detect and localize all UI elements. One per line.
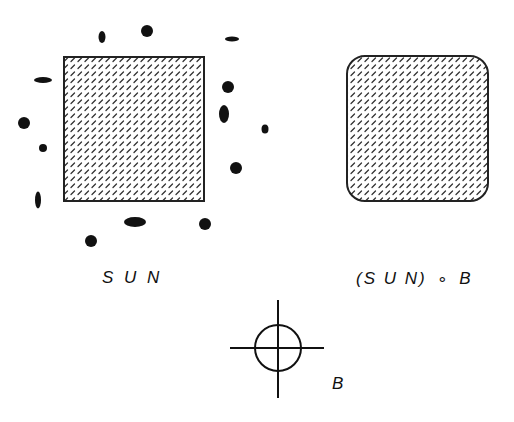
noise-blob	[225, 37, 239, 42]
right-panel-label: (S U N) ∘ B	[356, 268, 472, 289]
structuring-element-label: B	[332, 374, 346, 394]
noise-blob	[141, 25, 153, 37]
noise-blob	[34, 77, 52, 83]
noise-blob	[35, 192, 41, 209]
noise-blob	[222, 81, 234, 93]
noise-blob	[39, 144, 47, 152]
noise-blob	[18, 117, 30, 129]
noise-blob	[124, 217, 146, 227]
right-label-set: (S U N)	[356, 269, 427, 288]
left-panel-label: S U N	[102, 268, 162, 288]
noise-blob	[199, 218, 211, 230]
set-s-union-n-rectangle	[64, 57, 204, 201]
opened-set-rounded-rectangle	[347, 56, 488, 201]
noise-blob	[230, 162, 242, 174]
noise-blob	[219, 105, 229, 123]
right-panel	[347, 56, 488, 201]
opening-operator-symbol: ∘	[437, 269, 448, 288]
noise-blob	[85, 235, 97, 247]
noise-blob	[99, 31, 106, 43]
right-label-b: B	[459, 269, 472, 288]
structuring-element-b	[230, 300, 324, 398]
figure-canvas	[0, 0, 514, 422]
left-panel	[18, 25, 269, 247]
noise-blob	[262, 125, 269, 134]
